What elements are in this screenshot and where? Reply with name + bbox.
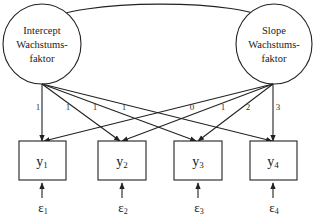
slope-loading-y4: 3 [276,102,281,112]
intercept-loading-y4: 1 [122,102,127,112]
error-e3: ε3 [194,200,203,216]
slope-factor: Slope Wachstums- faktor [236,4,312,84]
error-e2: ε2 [118,200,127,216]
slope-label-line2: Wachstums- [248,39,300,50]
slope-to-y2-path [122,84,273,141]
intercept-to-y3-path [42,84,196,141]
intercept-label-line2: Wachstums- [16,39,68,50]
intercept-loading-y3: 1 [93,102,98,112]
slope-label-line3: faktor [261,53,287,64]
slope-loading-y3: 2 [246,102,251,112]
indicator-y2: y2 [98,141,146,180]
intercept-label-line1: Intercept [23,25,60,36]
intercept-loading-y1: 1 [36,102,41,112]
error-e4: ε4 [269,200,278,216]
intercept-to-y2-path [42,84,120,141]
intercept-factor: Intercept Wachstums- faktor [3,4,81,84]
indicator-y4: y4 [250,141,297,180]
intercept-loading-y2: 1 [66,102,71,112]
intercept-label-line3: faktor [29,53,55,64]
slope-loading-y1: 0 [190,102,195,112]
covariance-arrow [42,4,272,23]
growth-model-diagram: Intercept Wachstums- faktor Slope Wachst… [0,0,316,219]
indicator-y1: y1 [19,141,66,180]
indicator-y3: y3 [174,141,222,180]
slope-label-line1: Slope [262,25,286,36]
slope-loading-y2: 1 [221,102,226,112]
error-e1: ε1 [38,200,47,216]
